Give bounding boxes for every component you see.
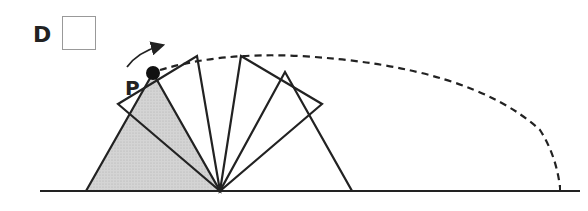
dashed-trajectory [160,55,560,187]
point-p-dot [146,66,160,80]
point-p-label: P [125,76,140,100]
rotation-diagram: P [0,0,588,211]
rotation-arrow-icon [127,46,160,67]
triangle-rotation-2 [220,56,322,191]
